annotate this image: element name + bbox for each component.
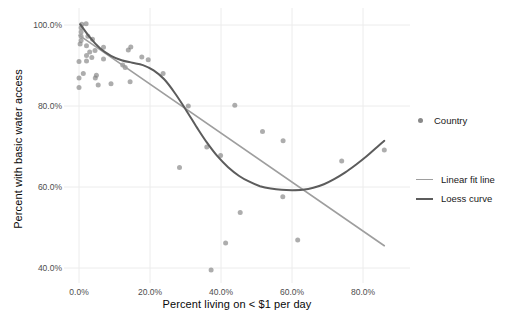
data-point xyxy=(260,129,265,134)
data-point xyxy=(238,210,243,215)
data-point xyxy=(186,104,191,109)
loess-curve xyxy=(80,24,384,190)
y-tick-label: 60.0% xyxy=(38,182,63,192)
data-point xyxy=(280,194,285,199)
data-point xyxy=(101,57,106,62)
y-tick-label: 100.0% xyxy=(33,20,62,30)
data-point xyxy=(223,240,228,245)
x-tick-label: 20.0% xyxy=(138,287,163,297)
data-point xyxy=(84,43,89,48)
legend-loess-label: Loess curve xyxy=(441,193,492,204)
legend-country-label: Country xyxy=(434,115,467,126)
data-point xyxy=(382,148,387,153)
x-tick-label: 0.0% xyxy=(69,287,89,297)
loess-curve-swatch-icon xyxy=(416,198,433,200)
data-point xyxy=(96,82,101,87)
y-axis-title: Percent with basic water access xyxy=(12,0,24,299)
data-point xyxy=(232,103,237,108)
data-point xyxy=(109,81,114,86)
data-point xyxy=(77,76,82,81)
data-point xyxy=(281,138,286,143)
gridlines xyxy=(64,8,410,283)
data-point xyxy=(128,79,133,84)
y-tick-label: 40.0% xyxy=(38,263,63,273)
data-point xyxy=(177,165,182,170)
chart-canvas: 0.0%20.0%40.0%60.0%80.0%40.0%60.0%80.0%1… xyxy=(0,0,508,332)
legend-item-linear-fit: Linear fit line xyxy=(416,174,495,185)
data-point xyxy=(84,59,89,64)
data-point xyxy=(84,21,89,26)
data-point xyxy=(78,42,83,47)
data-point xyxy=(209,268,214,273)
legend-item-loess: Loess curve xyxy=(416,193,492,204)
fit-lines xyxy=(79,24,384,246)
data-point xyxy=(84,53,89,58)
data-point xyxy=(81,71,86,76)
data-point xyxy=(146,57,151,62)
data-point xyxy=(93,76,98,81)
data-point xyxy=(339,159,344,164)
legend-linear-fit-label: Linear fit line xyxy=(441,174,495,185)
data-point xyxy=(89,55,94,60)
data-point xyxy=(295,238,300,243)
scatter-plot-figure: 0.0%20.0%40.0%60.0%80.0%40.0%60.0%80.0%1… xyxy=(0,0,508,332)
data-point xyxy=(79,29,84,34)
linear-fit-line xyxy=(79,35,384,246)
scatter-points xyxy=(77,21,387,272)
y-tick-label: 80.0% xyxy=(38,101,63,111)
x-axis-title: Percent living on < $1 per day xyxy=(87,298,387,310)
country-point-swatch-icon xyxy=(418,118,423,123)
data-point xyxy=(77,59,82,64)
x-tick-label: 80.0% xyxy=(351,287,376,297)
data-point xyxy=(77,85,82,90)
legend-item-country: Country xyxy=(418,115,467,126)
data-point xyxy=(128,44,133,49)
x-tick-label: 40.0% xyxy=(209,287,234,297)
data-point xyxy=(139,55,144,60)
x-tick-label: 60.0% xyxy=(280,287,305,297)
data-point xyxy=(93,48,98,53)
linear-fit-swatch-icon xyxy=(416,179,433,180)
